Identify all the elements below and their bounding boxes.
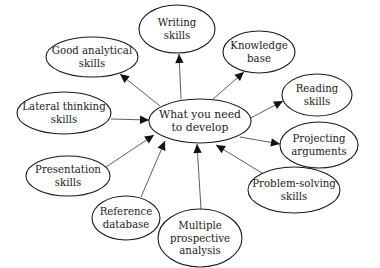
node-problem: Problem-solvingskills	[248, 167, 340, 213]
node-label: Lateral thinking	[22, 101, 106, 112]
arrow-head-icon	[175, 54, 183, 63]
node-presentation: Presentationskills	[26, 156, 110, 196]
node-label: Multiple	[178, 220, 221, 231]
edge-reference	[141, 141, 165, 197]
center-node: What you needto develop	[149, 99, 251, 143]
node-label: skills	[79, 58, 105, 69]
node-label: Reading	[296, 83, 339, 94]
edge-multiple	[197, 144, 201, 209]
arrow-head-icon	[273, 101, 283, 109]
node-label: Reference	[100, 206, 153, 217]
node-label: base	[247, 53, 271, 64]
arrow-head-icon	[234, 72, 244, 81]
node-multiple: Multipleprospectiveanalysis	[158, 209, 242, 267]
mind-map-diagram: WritingskillsGood analyticalskillsKnowle…	[0, 0, 380, 268]
node-reference: Referencedatabase	[92, 196, 160, 240]
node-label: skills	[281, 191, 307, 202]
node-label: skills	[304, 96, 330, 107]
arrow-head-icon	[216, 145, 226, 153]
node-label: arguments	[291, 146, 347, 157]
arrow-head-icon	[144, 135, 154, 143]
node-label: analysis	[179, 245, 220, 256]
nodes-layer: WritingskillsGood analyticalskillsKnowle…	[17, 5, 358, 267]
node-label: What you need	[159, 108, 241, 121]
arrow-head-icon	[193, 144, 201, 153]
node-label: to develop	[172, 121, 229, 134]
node-label: Good analytical	[52, 45, 132, 56]
node-writing: Writingskills	[139, 5, 215, 53]
arrow-head-icon	[140, 116, 149, 124]
node-label: Writing	[158, 17, 197, 28]
node-label: skills	[55, 177, 81, 188]
node-label: skills	[164, 30, 190, 41]
node-label: skills	[51, 114, 77, 125]
node-reading: Readingskills	[282, 74, 352, 116]
node-label: database	[103, 219, 150, 230]
node-label: Presentation	[35, 164, 101, 175]
node-label: Projecting	[292, 133, 346, 144]
node-lateral: Lateral thinkingskills	[17, 92, 111, 134]
arrow-head-icon	[270, 138, 280, 146]
node-label: Problem-solving	[252, 178, 336, 189]
node-label: Knowledge	[230, 40, 287, 51]
node-projecting: Projectingarguments	[280, 122, 358, 168]
node-analytical: Good analyticalskills	[46, 37, 138, 77]
node-label: prospective	[170, 233, 230, 244]
node-knowledge: Knowledgebase	[223, 31, 295, 73]
arrow-head-icon	[120, 74, 130, 83]
